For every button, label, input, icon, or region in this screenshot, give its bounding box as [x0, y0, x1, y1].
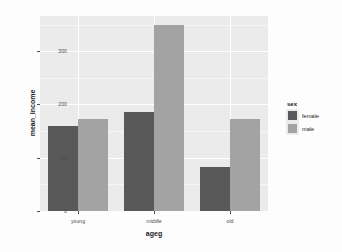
- legend-title: sex: [286, 101, 319, 107]
- bar-middle-female: [124, 112, 154, 211]
- legend-swatch-female: [288, 111, 297, 120]
- legend-entries: femalemale: [286, 109, 319, 135]
- y-tick-mark: [37, 104, 40, 105]
- legend-label-male: male: [302, 126, 314, 132]
- y-tick-mark: [37, 51, 40, 52]
- y-tick-label: 0: [64, 208, 67, 214]
- legend-label-female: female: [302, 113, 319, 119]
- bar-middle-male: [154, 25, 184, 211]
- x-tick-mark: [230, 211, 231, 214]
- x-tick-mark: [154, 211, 155, 214]
- chart-root: 0100200300youngmiddleold mean_income age…: [0, 0, 342, 252]
- bar-series-layer: [40, 16, 268, 211]
- legend-key: [286, 109, 299, 122]
- bar-old-male: [230, 119, 260, 211]
- x-tick-label-young: young: [71, 218, 85, 224]
- bar-young-male: [78, 119, 108, 211]
- legend-item-male: male: [286, 122, 319, 135]
- y-tick-label: 200: [58, 101, 67, 107]
- bar-young-female: [48, 126, 78, 211]
- y-tick-label: 100: [58, 155, 67, 161]
- plot-panel: [40, 16, 268, 211]
- legend-swatch-male: [288, 124, 297, 133]
- legend-item-female: female: [286, 109, 319, 122]
- legend: sex femalemale: [286, 101, 319, 135]
- x-tick-mark: [78, 211, 79, 214]
- x-tick-label-old: old: [227, 218, 234, 224]
- y-tick-label: 300: [58, 48, 67, 54]
- x-tick-label-middle: middle: [146, 218, 161, 224]
- x-axis-title: ageg: [0, 230, 308, 237]
- y-axis-title: mean_income: [29, 90, 36, 137]
- y-tick-mark: [37, 158, 40, 159]
- bar-old-female: [200, 167, 230, 211]
- y-tick-mark: [37, 211, 40, 212]
- legend-key: [286, 122, 299, 135]
